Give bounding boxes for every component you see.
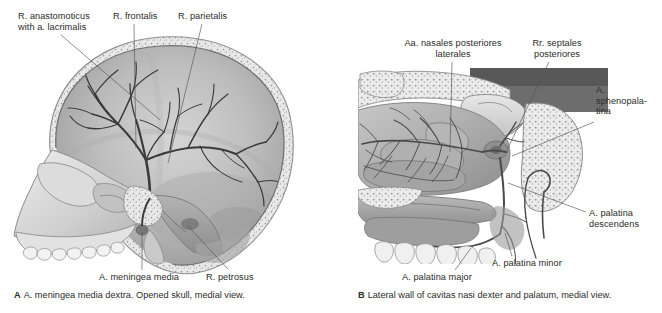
label-rr-septales-posteriores: Rr. septales posteriores (522, 38, 592, 59)
leader-a-sphenopalatina (512, 122, 594, 156)
caption-figure-b: BLateral wall of cavitas nasi dexter and… (358, 290, 611, 301)
figure-a-letter: A (14, 290, 21, 300)
label-aa-nasales-posteriores-laterales: Aa. nasales posteriores laterales (393, 38, 513, 59)
figure-plate: R. anastomoticus with a. lacrimalis R. f… (0, 0, 662, 313)
caption-figure-a: AA. meningea media dextra. Opened skull,… (14, 290, 245, 301)
leader-a-palatina-major (455, 248, 471, 270)
leader-rr-septales-posteriores (508, 62, 549, 148)
label-a-palatina-major: A. palatina major (402, 272, 472, 283)
figure-b-caption-text: Lateral wall of cavitas nasi dexter and … (368, 290, 612, 300)
leader-aa-nasales-posteriores-laterales (450, 62, 452, 152)
label-a-sphenopalatina: A. sphenopala- tina (596, 85, 647, 117)
leader-a-palatina-minor (505, 233, 512, 256)
label-a-palatina-descendens: A. palatina descendens (589, 208, 639, 229)
figure-a-caption-text: A. meningea media dextra. Opened skull, … (24, 290, 245, 300)
figure-b-letter: B (358, 290, 365, 300)
label-a-palatina-minor: A. palatina minor (492, 258, 562, 269)
leader-a-palatina-descendens (508, 183, 586, 212)
